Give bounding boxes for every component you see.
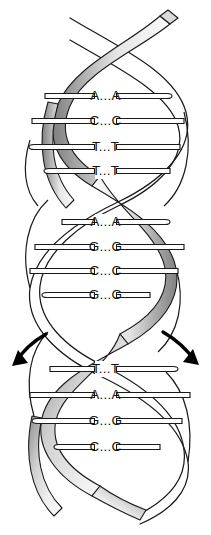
rung-bar-right (117, 145, 181, 150)
rung-bar-left (42, 293, 94, 298)
rung-bar-right (117, 445, 161, 450)
rung-bar-right (117, 245, 185, 250)
rung-bar-right (117, 220, 171, 225)
rung-bar-right (117, 119, 185, 124)
rung-bar-left (30, 269, 95, 274)
rung-bar-left (45, 94, 95, 99)
base-pair-label: C...C (90, 263, 122, 278)
base-pair-label: A...A (90, 88, 120, 103)
rung-bar-right (117, 269, 179, 274)
rung-bar-right (117, 367, 179, 372)
base-pair-label: A...A (90, 387, 120, 402)
rung-bar-left (32, 119, 95, 124)
rung-bar-left (54, 445, 95, 450)
rung-bar-left (44, 169, 95, 174)
rung-bar-left (30, 393, 95, 398)
base-pair-label: G...G (89, 287, 122, 302)
rung-bar-left (29, 145, 95, 150)
rung-bar-left (50, 367, 95, 372)
rung-bar-right (117, 419, 183, 424)
dna-helix-figure: A...AC...CT...TT...TA...AG...GC...CG...G… (0, 0, 211, 535)
base-pair-label: G...G (89, 239, 122, 254)
rung-bar-left (35, 245, 95, 250)
dna-helix-svg: A...AC...CT...TT...TA...AG...GC...CG...G… (0, 0, 211, 535)
base-pair-label: T...T (92, 361, 119, 376)
base-pair-label: C...C (90, 113, 122, 128)
base-pair-label: T...T (92, 163, 119, 178)
base-pair-label: T...T (92, 139, 119, 154)
base-pair-label: C...C (90, 439, 122, 454)
base-pair-label: A...A (90, 214, 120, 229)
rung-bar-right (117, 94, 173, 99)
rung-bar-right (117, 393, 191, 398)
rung-bar-left (32, 419, 95, 424)
base-pair-label: G...G (89, 413, 122, 428)
rung-bar-right (117, 169, 171, 174)
